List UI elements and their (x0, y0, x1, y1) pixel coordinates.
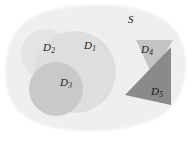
label-region-d1-subscript: 1 (92, 44, 96, 53)
label-region-d3-subscript: 3 (68, 81, 72, 90)
label-region-d4: D4 (141, 44, 153, 57)
label-region-d4-base: D (141, 43, 149, 55)
label-region-d5: D5 (151, 86, 163, 99)
region-d3-circle (29, 62, 83, 116)
set-diagram-figure: S D1 D2 D3 D4 D5 (0, 0, 196, 141)
label-universe-s: S (128, 14, 134, 25)
label-region-d1-base: D (84, 39, 92, 51)
label-region-d4-subscript: 4 (149, 48, 153, 57)
label-region-d3-base: D (60, 76, 68, 88)
label-region-d5-base: D (151, 85, 159, 97)
label-region-d5-subscript: 5 (159, 90, 163, 99)
label-region-d1: D1 (84, 40, 96, 53)
label-region-d2-base: D (43, 41, 51, 53)
diagram-canvas (0, 0, 196, 141)
label-region-d3: D3 (60, 77, 72, 90)
label-region-d2: D2 (43, 42, 55, 55)
label-region-d2-subscript: 2 (51, 46, 55, 55)
label-universe-s-text: S (128, 13, 134, 25)
